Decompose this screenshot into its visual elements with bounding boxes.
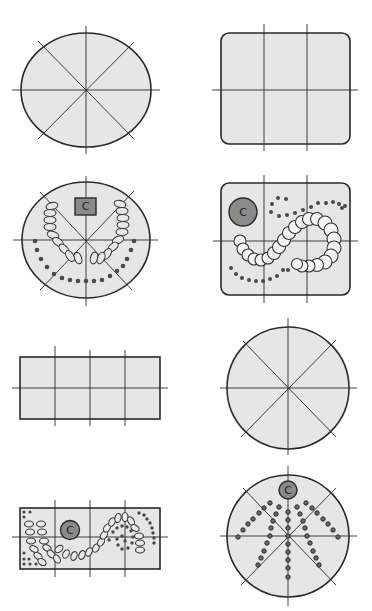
panel-1-oval-empty <box>12 26 160 154</box>
teacher-label: C <box>66 524 74 537</box>
panel-4-rounded-rect-seating: C <box>213 175 358 303</box>
panel-3-oval-seating: C <box>13 176 158 306</box>
panel-6-circle-empty <box>220 318 357 455</box>
diagram-canvas: C <box>0 0 372 611</box>
panel-7-rectangle-seating: C <box>12 500 168 577</box>
panel-5-rectangle-empty <box>12 346 168 426</box>
teacher-label: C <box>239 206 247 219</box>
panel-2-rounded-rect-empty <box>212 24 358 151</box>
teacher-label: C <box>82 200 90 213</box>
teacher-label: C <box>284 484 292 497</box>
panel-8-circle-seating: C <box>220 466 357 606</box>
rounded-rect-room <box>221 33 350 144</box>
